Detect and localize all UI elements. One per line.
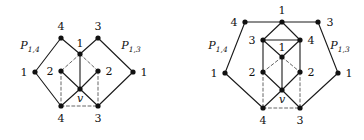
right-pentagon-graph-path-label-p14: P1,4 [208, 40, 227, 54]
node-label-R-top-1: 1 [279, 5, 286, 16]
dashed-edge-R-center-1-R-left-2 [263, 57, 282, 72]
node-label-R-bot-3: 3 [297, 115, 304, 126]
graph-node-R-top-3[interactable] [315, 19, 320, 24]
node-label-L-right-1: 1 [141, 67, 148, 78]
graph-node-L-bot-3[interactable] [95, 103, 100, 108]
graph-node-R-top-4[interactable] [242, 19, 247, 24]
graph-node-L-left-1[interactable] [32, 69, 37, 74]
graph-node-L-left-2[interactable] [58, 68, 63, 73]
node-label-R-left-1: 1 [211, 68, 218, 79]
dashed-edge-L-center-1-L-left-2 [61, 54, 80, 71]
solid-edge-R-left-1-R-bot-4 [225, 73, 263, 108]
left-diamond-graph-path-label-p14: P1,4 [20, 40, 39, 54]
node-label-L-top-4: 4 [58, 21, 65, 32]
node-label-R-center-1: 1 [279, 42, 286, 53]
solid-edge-R-right-1-R-bot-3 [300, 73, 338, 108]
node-label-L-center-1: 1 [77, 38, 84, 49]
figure-canvas: 1431122v43P1,4P1,34133411122v43P1,4P1,3 [0, 0, 364, 140]
right-pentagon-graph-path-label-p13: P1,3 [330, 40, 349, 54]
graph-node-R-right-1[interactable] [335, 70, 340, 75]
graph-node-L-top-3[interactable] [95, 35, 100, 40]
graph-node-R-bot-4[interactable] [260, 105, 265, 110]
graph-node-L-top-4[interactable] [58, 35, 63, 40]
node-label-R-top-4: 4 [231, 17, 238, 28]
node-label-R-top-3: 3 [327, 17, 334, 28]
solid-edge-L-right-2-L-v [80, 71, 98, 89]
node-label-L-bot-3: 3 [95, 113, 102, 124]
left-diamond-graph-path-label-p13: P1,3 [121, 40, 140, 54]
node-label-L-left-2: 2 [47, 66, 54, 77]
solid-edge-L-right-1-L-bot-3 [98, 72, 133, 106]
graph-node-R-left-1[interactable] [222, 70, 227, 75]
solid-edge-R-left-2-R-v [263, 72, 282, 90]
graph-node-R-center-1[interactable] [279, 54, 284, 59]
solid-edge-R-right-2-R-v [282, 72, 300, 90]
graph-node-L-center-1[interactable] [77, 51, 82, 56]
node-label-L-left-1: 1 [21, 67, 28, 78]
solid-edge-R-top-1-R-in-3 [263, 22, 282, 40]
node-label-R-in-3: 3 [249, 35, 256, 46]
node-label-L-top-3: 3 [95, 21, 102, 32]
solid-edge-R-top-1-R-in-4 [282, 22, 300, 40]
graph-node-R-top-1[interactable] [279, 19, 284, 24]
graph-node-L-right-2[interactable] [95, 68, 100, 73]
node-label-R-right-1: 1 [346, 68, 353, 79]
graph-node-R-in-4[interactable] [297, 37, 302, 42]
graph-node-R-in-3[interactable] [260, 37, 265, 42]
graph-node-R-left-2[interactable] [260, 69, 265, 74]
node-label-R-in-4: 4 [308, 35, 315, 46]
graph-node-L-right-1[interactable] [130, 69, 135, 74]
node-label-L-bot-4: 4 [58, 113, 65, 124]
node-label-R-bot-4: 4 [260, 115, 267, 126]
solid-edge-L-left-2-L-v [61, 71, 80, 89]
node-label-R-left-2: 2 [249, 67, 256, 78]
graph-node-L-bot-4[interactable] [58, 103, 63, 108]
node-label-L-v: v [77, 93, 83, 104]
node-label-R-v: v [279, 94, 285, 105]
node-label-R-right-2: 2 [308, 67, 315, 78]
dashed-edge-L-center-1-L-right-2 [80, 54, 98, 71]
graph-node-R-right-2[interactable] [297, 69, 302, 74]
node-label-L-right-2: 2 [106, 66, 113, 77]
graph-node-R-bot-3[interactable] [297, 105, 302, 110]
dashed-edge-R-center-1-R-right-2 [282, 57, 300, 72]
solid-edge-R-top-4-R-left-1 [225, 22, 245, 73]
